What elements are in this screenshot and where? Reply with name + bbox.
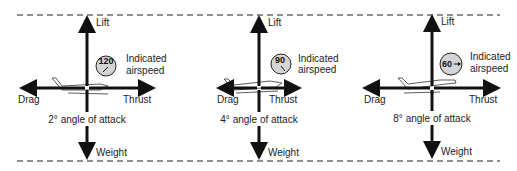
airspeed-label: airspeed: [470, 63, 508, 74]
airspeed-value: 60: [442, 59, 452, 69]
airspeed-value: 120: [98, 56, 113, 66]
thrust-label: Thrust: [469, 94, 498, 105]
indicated-label: Indicated: [298, 53, 339, 64]
lift-label: Lift: [441, 16, 455, 27]
airspeed-gauge: 60: [440, 53, 462, 75]
airspeed-label: airspeed: [298, 64, 336, 75]
airplane-icon: [52, 78, 108, 94]
weight-label: Weight: [96, 147, 127, 158]
lift-label: Lift: [268, 17, 282, 28]
airplane-icon: [398, 78, 456, 93]
airspeed-gauge: 90: [271, 54, 291, 74]
forces-diagram: 120 Indicated airspeed Lift Weight Drag …: [0, 0, 517, 171]
drag-label: Drag: [364, 94, 386, 105]
weight-label: Weight: [268, 147, 299, 158]
thrust-label: Thrust: [123, 94, 152, 105]
airspeed-gauge: 120: [96, 56, 116, 76]
aoa-label: 4° angle of attack: [220, 114, 298, 125]
weight-label: Weight: [441, 146, 472, 157]
drag-label: Drag: [217, 94, 239, 105]
panel-1: 120 Indicated airspeed Lift Weight Drag …: [18, 17, 167, 158]
airspeed-value: 90: [275, 55, 285, 65]
indicated-label: Indicated: [470, 51, 511, 62]
panel-3: 60 Indicated airspeed Lift Weight Drag T…: [364, 16, 511, 157]
airspeed-label: airspeed: [126, 65, 164, 76]
drag-label: Drag: [18, 94, 40, 105]
aoa-label: 8° angle of attack: [393, 113, 471, 124]
aoa-label: 2° angle of attack: [48, 114, 126, 125]
airplane-icon: [224, 79, 282, 93]
indicated-label: Indicated: [126, 53, 167, 64]
panel-2: 90 Indicated airspeed Lift Weight Drag T…: [217, 17, 339, 158]
lift-label: Lift: [96, 17, 110, 28]
thrust-label: Thrust: [269, 94, 298, 105]
